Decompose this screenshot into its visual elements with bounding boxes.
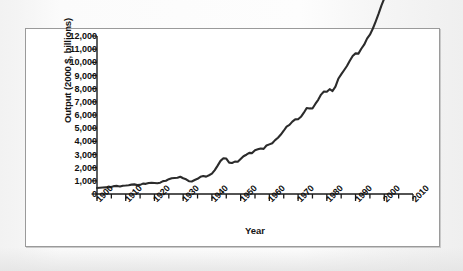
y-tick-label: 0	[50, 190, 97, 199]
output-series-line	[97, 0, 404, 188]
y-tick-label: 11,000	[50, 45, 97, 54]
y-tick-label: 10,000	[50, 58, 97, 67]
x-axis-title: Year	[97, 225, 413, 236]
plot-area	[97, 36, 413, 194]
y-tick-label: 5,000	[50, 124, 97, 133]
figure-frame: Output (2000 $, billions) 01,0002,0003,0…	[25, 28, 440, 247]
y-axis-tick-labels: 01,0002,0003,0004,0005,0006,0007,0008,00…	[50, 36, 97, 194]
y-tick-label: 3,000	[50, 150, 97, 159]
y-tick-label: 2,000	[50, 163, 97, 172]
y-tick-label: 8,000	[50, 84, 97, 93]
y-tick-label: 4,000	[50, 137, 97, 146]
y-tick-label: 12,000	[50, 32, 97, 41]
y-tick-label: 6,000	[50, 111, 97, 120]
chart-svg	[97, 36, 413, 194]
x-tick-label: 2010	[410, 183, 431, 204]
y-tick-label: 7,000	[50, 97, 97, 106]
y-tick-label: 9,000	[50, 71, 97, 80]
axis-lines	[97, 36, 413, 194]
y-tick-label: 1,000	[50, 176, 97, 185]
scanned-page-background: Output (2000 $, billions) 01,0002,0003,0…	[0, 0, 463, 271]
